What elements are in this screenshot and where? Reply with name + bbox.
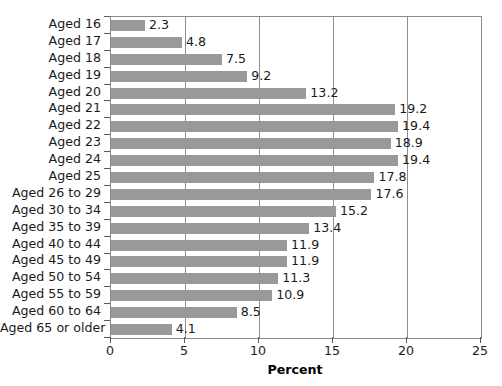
- bar-value-label: 13.2: [306, 85, 338, 102]
- bar[interactable]: [111, 290, 272, 301]
- bar-value-label: 4.8: [182, 34, 206, 51]
- category-label: Aged 26 to 29: [0, 185, 105, 202]
- category-label: Aged 20: [0, 84, 105, 101]
- category-label: Aged 23: [0, 134, 105, 151]
- category-label: Aged 18: [0, 50, 105, 67]
- bar-row: 7.5: [111, 51, 481, 68]
- bar-row: 15.2: [111, 203, 481, 220]
- bar-row: 8.5: [111, 304, 481, 321]
- category-label: Aged 24: [0, 151, 105, 168]
- bar[interactable]: [111, 206, 336, 217]
- category-label: Aged 30 to 34: [0, 202, 105, 219]
- bar-row: 18.9: [111, 135, 481, 152]
- x-axis-tick-label: 25: [472, 343, 488, 358]
- bar-series: 2.34.87.59.213.219.219.418.919.417.817.6…: [111, 17, 481, 338]
- bar[interactable]: [111, 138, 391, 149]
- bar-value-label: 17.6: [371, 186, 403, 203]
- bar[interactable]: [111, 88, 306, 99]
- category-label: Aged 35 to 39: [0, 219, 105, 236]
- bar[interactable]: [111, 172, 374, 183]
- bar-row: 17.6: [111, 186, 481, 203]
- category-label: Aged 50 to 54: [0, 269, 105, 286]
- bar[interactable]: [111, 256, 287, 267]
- category-label: Aged 45 to 49: [0, 252, 105, 269]
- bar-value-label: 7.5: [222, 51, 246, 68]
- bar-row: 10.9: [111, 287, 481, 304]
- bar-row: 9.2: [111, 68, 481, 85]
- bar[interactable]: [111, 37, 182, 48]
- bar-value-label: 2.3: [145, 17, 169, 34]
- category-label: Aged 21: [0, 100, 105, 117]
- bar-row: 17.8: [111, 169, 481, 186]
- bar[interactable]: [111, 240, 287, 251]
- bar-value-label: 18.9: [391, 135, 423, 152]
- category-axis-labels: Aged 16Aged 17Aged 18Aged 19Aged 20Aged …: [0, 16, 105, 337]
- bar-value-label: 19.2: [395, 101, 427, 118]
- category-label: Aged 55 to 59: [0, 286, 105, 303]
- bar-value-label: 19.4: [398, 118, 430, 135]
- bar-value-label: 9.2: [247, 68, 271, 85]
- bar-value-label: 19.4: [398, 152, 430, 169]
- bar-row: 11.3: [111, 270, 481, 287]
- bar[interactable]: [111, 189, 371, 200]
- bar-value-label: 11.3: [278, 270, 310, 287]
- bar-value-label: 4.1: [172, 321, 196, 338]
- bar-chart: Aged 16Aged 17Aged 18Aged 19Aged 20Aged …: [0, 0, 502, 386]
- x-axis-tick-label: 5: [180, 343, 188, 358]
- bar-row: 11.9: [111, 253, 481, 270]
- bar-row: 19.2: [111, 101, 481, 118]
- bar-value-label: 11.9: [287, 237, 319, 254]
- bar-row: 13.4: [111, 220, 481, 237]
- bar[interactable]: [111, 54, 222, 65]
- bar-row: 19.4: [111, 152, 481, 169]
- category-label: Aged 60 to 64: [0, 303, 105, 320]
- category-label: Aged 22: [0, 117, 105, 134]
- category-label: Aged 65 or older: [0, 320, 105, 337]
- bar-row: 19.4: [111, 118, 481, 135]
- bar-row: 4.1: [111, 321, 481, 338]
- bar-value-label: 11.9: [287, 253, 319, 270]
- x-axis-title: Percent: [110, 362, 480, 377]
- bar-value-label: 15.2: [336, 203, 368, 220]
- bar[interactable]: [111, 223, 309, 234]
- bar[interactable]: [111, 155, 398, 166]
- bar-value-label: 10.9: [272, 287, 304, 304]
- category-label: Aged 16: [0, 16, 105, 33]
- bar[interactable]: [111, 273, 278, 284]
- bar[interactable]: [111, 71, 247, 82]
- bar-row: 2.3: [111, 17, 481, 34]
- x-axis-tick-label: 15: [324, 343, 340, 358]
- bar[interactable]: [111, 307, 237, 318]
- bar-value-label: 17.8: [374, 169, 406, 186]
- category-label: Aged 40 to 44: [0, 236, 105, 253]
- category-label: Aged 17: [0, 33, 105, 50]
- bar-row: 4.8: [111, 34, 481, 51]
- x-axis-tick-labels: 0510152025: [110, 343, 480, 361]
- bar-value-label: 13.4: [309, 220, 341, 237]
- bar[interactable]: [111, 104, 395, 115]
- bar[interactable]: [111, 324, 172, 335]
- bar-row: 11.9: [111, 237, 481, 254]
- x-axis-tick-label: 20: [398, 343, 414, 358]
- category-label: Aged 25: [0, 168, 105, 185]
- bar-value-label: 8.5: [237, 304, 261, 321]
- bar[interactable]: [111, 20, 145, 31]
- x-axis-tick-label: 10: [250, 343, 266, 358]
- plot-area: 2.34.87.59.213.219.219.418.919.417.817.6…: [110, 16, 482, 339]
- x-axis-tick-label: 0: [106, 343, 114, 358]
- bar-row: 13.2: [111, 85, 481, 102]
- category-label: Aged 19: [0, 67, 105, 84]
- bar[interactable]: [111, 121, 398, 132]
